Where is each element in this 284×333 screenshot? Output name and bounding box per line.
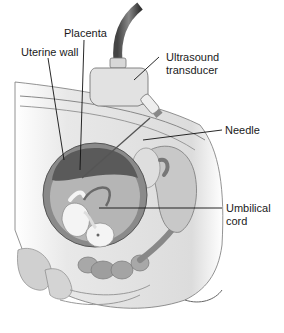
label-needle: Needle (225, 124, 260, 136)
ultrasound-transducer (90, 58, 148, 106)
label-placenta: Placenta (64, 27, 107, 39)
label-uterine-wall: Uterine wall (21, 46, 78, 58)
label-ultrasound-line2: transducer (166, 64, 218, 76)
label-ultrasound-line1: Ultrasound (166, 51, 219, 63)
transducer-cable (118, 6, 140, 62)
label-umbilical-line1: Umbilical (226, 202, 271, 214)
label-umbilical-line2: cord (226, 215, 247, 227)
